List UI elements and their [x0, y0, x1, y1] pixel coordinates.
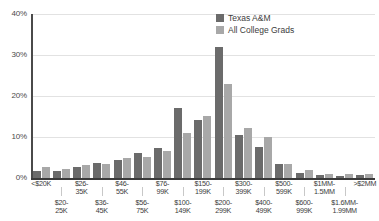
x-axis-tick-label-line: 299K	[215, 206, 231, 215]
income-distribution-bar-chart: 0%10%20%30%40% Texas A&M All College Gra…	[0, 0, 379, 221]
bar-group	[233, 14, 253, 178]
x-axis-tick-label-line: 149K	[175, 206, 191, 215]
bar[interactable]	[114, 160, 122, 178]
legend-swatch-icon	[216, 26, 224, 34]
bar[interactable]	[73, 167, 81, 178]
bar[interactable]	[305, 170, 313, 178]
bar[interactable]	[336, 176, 344, 178]
bar[interactable]	[275, 164, 283, 178]
x-axis-tick-label-line: 199K	[195, 187, 211, 196]
y-axis-tick-label: 40%	[1, 9, 27, 18]
bar[interactable]	[264, 137, 272, 178]
bar[interactable]	[102, 164, 110, 178]
x-axis-tick-label-line: 55K	[116, 187, 128, 196]
bar-group	[213, 14, 233, 178]
bar[interactable]	[235, 135, 243, 178]
bar[interactable]	[143, 157, 151, 178]
x-axis-tick-label-line: 45K	[96, 206, 108, 215]
bar-group	[335, 14, 355, 178]
bar-group	[254, 14, 274, 178]
y-axis-line	[31, 14, 33, 178]
bar-group	[173, 14, 193, 178]
x-axis-tick-label-line: 1.5MM	[314, 187, 335, 196]
bars-layer	[31, 14, 375, 178]
bar[interactable]	[82, 165, 90, 178]
bar[interactable]	[163, 151, 171, 178]
x-axis-tick-label-line: 1.99MM	[332, 206, 356, 215]
bar[interactable]	[183, 133, 191, 178]
bar-group	[132, 14, 152, 178]
bar-group	[92, 14, 112, 178]
bar[interactable]	[244, 128, 252, 178]
bar[interactable]	[316, 175, 324, 178]
y-axis-tick-label: 10%	[1, 132, 27, 141]
bar[interactable]	[365, 174, 373, 179]
x-axis-labels: <$20K$20-25K$26-35K$36-45K$46-55K$56-75K…	[31, 180, 375, 221]
legend-label: Texas A&M	[228, 13, 271, 23]
bar[interactable]	[356, 175, 364, 178]
bar[interactable]	[224, 84, 232, 178]
bar[interactable]	[215, 47, 223, 178]
legend-item-all-college-grads[interactable]: All College Grads	[216, 25, 294, 35]
x-axis-tick-label-line: <$20K	[31, 179, 51, 188]
legend-item-texas-am[interactable]: Texas A&M	[216, 13, 294, 23]
legend-swatch-icon	[216, 14, 224, 22]
x-axis-tick-label-line: 25K	[55, 206, 67, 215]
bar[interactable]	[284, 164, 292, 178]
bar-group	[193, 14, 213, 178]
bar-group	[294, 14, 314, 178]
x-axis-tick-label-line: 75K	[136, 206, 148, 215]
bar[interactable]	[93, 163, 101, 178]
x-axis-tick-label: >$2MM	[340, 180, 379, 188]
bar[interactable]	[296, 173, 304, 178]
bar[interactable]	[134, 153, 142, 178]
legend: Texas A&M All College Grads	[216, 13, 294, 37]
bar-group	[112, 14, 132, 178]
bar-group	[152, 14, 172, 178]
bar-group	[51, 14, 71, 178]
plot-area	[31, 14, 375, 178]
bar[interactable]	[123, 158, 131, 178]
x-axis-tick-label-line: 35K	[76, 187, 88, 196]
bar[interactable]	[194, 120, 202, 178]
x-axis-tick-label-line: 399K	[236, 187, 252, 196]
x-axis-tick-label-line: 599K	[276, 187, 292, 196]
bar-group	[274, 14, 294, 178]
bar[interactable]	[255, 147, 263, 178]
y-axis-tick-label: 30%	[1, 50, 27, 59]
bar-group	[355, 14, 375, 178]
legend-label: All College Grads	[228, 25, 294, 35]
x-axis-tick-label-line: 999K	[296, 206, 312, 215]
bar-group	[314, 14, 334, 178]
bar[interactable]	[154, 148, 162, 178]
bar[interactable]	[345, 174, 353, 178]
bar[interactable]	[33, 171, 41, 178]
x-axis-tick-label-line: 499K	[256, 206, 272, 215]
bar[interactable]	[53, 171, 61, 178]
bar-group	[31, 14, 51, 178]
x-axis-tick-label-line: 99K	[157, 187, 169, 196]
bar[interactable]	[62, 169, 70, 178]
bar[interactable]	[42, 167, 50, 178]
bar[interactable]	[203, 116, 211, 178]
bar[interactable]	[325, 174, 333, 178]
y-axis-tick-label: 20%	[1, 91, 27, 100]
bar[interactable]	[174, 108, 182, 178]
x-axis-tick-label-line: >$2MM	[353, 179, 376, 188]
x-axis-tick-label: $1.6MM-1.99MM	[319, 199, 370, 216]
bar-group	[71, 14, 91, 178]
